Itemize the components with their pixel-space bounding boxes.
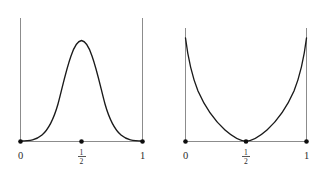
right-plot-dot-half <box>244 139 249 144</box>
right-plot-dot-0 <box>183 139 188 144</box>
left-plot-tick-label-half: 1 2 <box>78 148 86 167</box>
right-plot-tick-label-1: 1 <box>304 150 309 161</box>
left-plot-tick-label-0: 0 <box>18 150 23 161</box>
right-plot-tick-label-half-denominator: 2 <box>244 157 248 166</box>
left-plot-dot-0 <box>18 139 23 144</box>
left-plot: 0 1 2 1 <box>0 0 162 169</box>
right-plot: 0 1 2 1 <box>162 0 324 169</box>
right-plot-curve <box>186 38 307 141</box>
left-plot-tick-label-half-denominator: 2 <box>80 157 84 166</box>
left-plot-curve <box>21 41 143 142</box>
right-plot-tick-label-0: 0 <box>183 150 188 161</box>
right-plot-tick-label-half: 1 2 <box>242 148 250 167</box>
left-plot-tick-label-half-numerator: 1 <box>80 148 84 157</box>
left-plot-dot-1 <box>140 139 145 144</box>
right-plot-dot-1 <box>304 139 309 144</box>
left-plot-dot-half <box>79 139 84 144</box>
right-plot-tick-label-half-numerator: 1 <box>244 148 248 157</box>
figure-two-function-plots: 0 1 2 1 0 <box>0 0 324 169</box>
left-plot-tick-label-1: 1 <box>140 150 145 161</box>
